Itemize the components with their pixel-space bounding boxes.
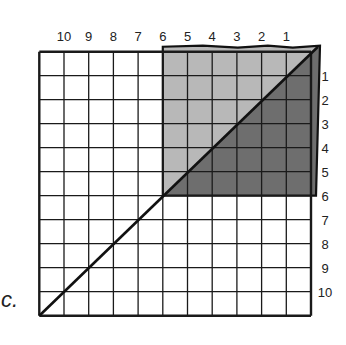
right-label: 4 (321, 141, 328, 156)
top-label: 2 (258, 29, 265, 44)
top-axis-labels: 10987654321 (57, 29, 290, 44)
top-label: 7 (134, 29, 141, 44)
right-axis-labels: 12345678910 (318, 69, 332, 300)
top-label: 4 (209, 29, 216, 44)
panel-label: c. (1, 287, 18, 313)
top-label: 9 (85, 29, 92, 44)
right-label: 5 (321, 165, 328, 180)
right-label: 6 (321, 189, 328, 204)
grid-diagram: 10987654321 12345678910 (0, 0, 346, 345)
top-label: 3 (233, 29, 240, 44)
right-label: 10 (318, 285, 332, 300)
top-label: 10 (57, 29, 71, 44)
right-label: 9 (321, 261, 328, 276)
top-label: 1 (283, 29, 290, 44)
top-label: 6 (159, 29, 166, 44)
top-label: 8 (110, 29, 117, 44)
right-label: 2 (321, 93, 328, 108)
right-label: 1 (321, 69, 328, 84)
right-label: 8 (321, 237, 328, 252)
right-label: 7 (321, 213, 328, 228)
top-label: 5 (184, 29, 191, 44)
right-label: 3 (321, 117, 328, 132)
